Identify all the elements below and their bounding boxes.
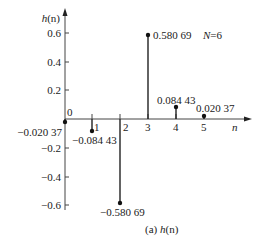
stem-plot: 0.6 0.4 0.2 −0.2 −0.4 −0.6 h(n) 0 1 2 3 … — [0, 0, 255, 251]
y-axis-arrow-icon — [63, 8, 68, 16]
marker-n0 — [63, 120, 67, 124]
x-tick-label: 4 — [173, 121, 179, 133]
data-label-n3: 0.580 69 — [153, 29, 192, 41]
marker-n1 — [90, 129, 94, 133]
data-label-n2: −0.580 69 — [100, 206, 145, 218]
x-axis-arrow-icon — [244, 117, 252, 122]
n-annotation: N=6 — [202, 29, 223, 41]
x-axis-label: n — [232, 121, 238, 133]
marker-n5 — [202, 114, 206, 118]
x-tick-label: 5 — [201, 121, 207, 133]
x-tick-label: 3 — [145, 121, 151, 133]
chart-root: 0.6 0.4 0.2 −0.2 −0.4 −0.6 h(n) 0 1 2 3 … — [0, 0, 255, 251]
y-tick-label: 0.4 — [47, 56, 61, 68]
x-tick-label: 2 — [123, 121, 129, 133]
data-label-n5: 0.020 37 — [196, 102, 235, 114]
data-label-n1: −0.084 43 — [72, 134, 117, 146]
y-tick-label: −0.6 — [41, 199, 61, 211]
y-tick-label: 0.6 — [47, 27, 61, 39]
marker-n3 — [146, 33, 150, 37]
y-tick-label: −0.4 — [41, 171, 61, 183]
y-axis-label: h(n) — [42, 12, 61, 25]
marker-n2 — [118, 201, 122, 205]
x-tick-label: 0 — [67, 106, 73, 118]
x-tick-label: 1 — [94, 121, 100, 133]
y-tick-label: 0.2 — [47, 84, 61, 96]
data-label-n4: 0.084 43 — [157, 94, 196, 106]
data-label-n0: −0.020 37 — [17, 126, 62, 138]
y-tick-label: −0.2 — [41, 142, 61, 154]
figure-caption: (a) h(n) — [145, 223, 179, 236]
